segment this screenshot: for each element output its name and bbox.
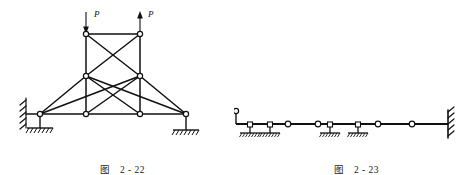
hinge-4-icon: [409, 121, 415, 127]
truss-members: [40, 34, 186, 114]
joint-base-right: [183, 111, 188, 116]
joint-top-left: [83, 31, 88, 36]
caption-number-left: 2 - 22: [120, 165, 145, 175]
support-left-base-icon: [26, 116, 53, 133]
load-label-p-left: P: [93, 9, 100, 19]
support-right-base-icon: [172, 116, 199, 135]
member-long-diag-left: [40, 76, 140, 114]
joint-base-left: [37, 111, 42, 116]
support-fixed-right-icon: [448, 107, 454, 138]
member-right-outer-chord: [140, 76, 186, 114]
figure-2-22: P P: [0, 0, 234, 175]
hinge-3-icon: [375, 121, 381, 127]
hinge-2-icon: [315, 121, 321, 127]
load-arrow-p-right: [137, 11, 143, 34]
joint-mid-left: [83, 73, 88, 78]
joint-base-midleft: [83, 111, 88, 116]
load-arrow-p-left: [83, 12, 89, 34]
member-long-diag-right: [86, 76, 186, 114]
beam-diagram: [234, 0, 468, 150]
support-left-wall-icon: [20, 98, 37, 129]
caption-number-right: 2 - 23: [354, 165, 379, 175]
load-label-p-right: P: [147, 9, 154, 19]
joint-base-midright: [137, 111, 142, 116]
joint-top-right: [137, 31, 142, 36]
caption-label-right: 图: [334, 165, 345, 175]
truss-diagram: P P: [0, 0, 234, 150]
caption-label-left: 图: [100, 165, 111, 175]
figure-caption-2-23: 图2 - 23: [234, 152, 468, 175]
truss-joints: [37, 31, 188, 116]
support-link-left-icon: [234, 108, 239, 124]
member-left-outer-chord: [40, 76, 86, 114]
hinge-1-icon: [285, 121, 291, 127]
figure-2-23: 图2 - 23: [234, 0, 468, 175]
joint-mid-right: [137, 73, 142, 78]
figure-caption-2-22: 图2 - 22: [0, 152, 234, 175]
